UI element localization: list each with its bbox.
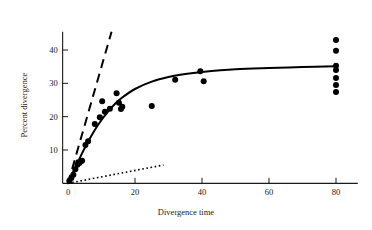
x-tick-label: 20 bbox=[131, 187, 140, 197]
y-tick-label: 40 bbox=[49, 45, 58, 55]
y-tick-label: 30 bbox=[49, 78, 58, 88]
data-point bbox=[97, 114, 103, 120]
data-point bbox=[119, 104, 125, 110]
data-point bbox=[333, 82, 339, 88]
data-point bbox=[149, 103, 155, 109]
x-tick-label: 0 bbox=[66, 187, 70, 197]
data-point bbox=[197, 68, 203, 74]
y-tick-label: 10 bbox=[49, 145, 58, 155]
data-point bbox=[333, 89, 339, 95]
data-point bbox=[92, 121, 98, 127]
data-point bbox=[85, 138, 91, 144]
y-axis-label: Percent divergence bbox=[19, 72, 29, 137]
x-tick-label: 60 bbox=[265, 187, 274, 197]
data-point bbox=[114, 90, 120, 96]
data-point bbox=[333, 75, 339, 81]
x-tick-label: 80 bbox=[332, 187, 341, 197]
data-point bbox=[70, 172, 76, 178]
x-axis-label: Divergence time bbox=[158, 207, 214, 217]
data-point bbox=[333, 67, 339, 73]
data-point bbox=[102, 109, 108, 115]
data-point bbox=[333, 37, 339, 43]
chart-figure: 020406080 10203040 Divergence time Perce… bbox=[0, 0, 372, 230]
x-tick-label: 40 bbox=[198, 187, 207, 197]
data-point bbox=[79, 158, 85, 164]
data-point bbox=[107, 106, 113, 112]
data-point bbox=[333, 48, 339, 54]
data-point bbox=[99, 98, 105, 104]
data-point bbox=[172, 77, 178, 83]
chart-plot-area: 020406080 10203040 Divergence time Perce… bbox=[0, 0, 372, 230]
y-tick-label: 20 bbox=[49, 112, 58, 122]
data-point bbox=[201, 78, 207, 84]
